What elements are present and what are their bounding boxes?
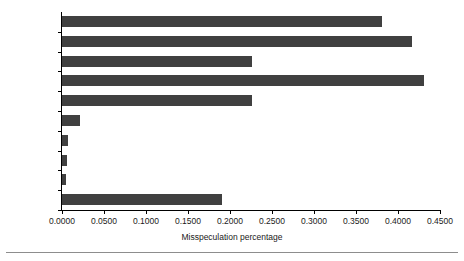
plot-area: gzipvprgccmcfcraftywupwiseswimmgridapplu…: [62, 12, 440, 210]
bar: [62, 135, 68, 146]
bar: [62, 75, 424, 86]
bar: [62, 56, 252, 67]
bar-row: wupwise: [62, 111, 440, 131]
bar-chart-figure: gzipvprgccmcfcraftywupwiseswimmgridapplu…: [0, 0, 464, 261]
x-axis-tick: [440, 210, 441, 214]
x-axis-tick: [356, 210, 357, 214]
bar-row: mcf: [62, 71, 440, 91]
x-axis-tick: [272, 210, 273, 214]
bar: [62, 115, 80, 126]
bar: [62, 174, 66, 185]
x-axis-tick: [146, 210, 147, 214]
x-axis-line: [61, 210, 441, 211]
x-axis-tick: [188, 210, 189, 214]
bar-row: gzip: [62, 12, 440, 32]
x-axis-tick: [398, 210, 399, 214]
x-axis-tick: [62, 210, 63, 214]
x-axis-tick: [314, 210, 315, 214]
bar: [62, 95, 252, 106]
bar: [62, 155, 67, 166]
bar-row: mgrid: [62, 151, 440, 171]
bar: [62, 36, 412, 47]
x-axis-tick-label: 0.4500: [410, 216, 464, 227]
bar-row: crafty: [62, 91, 440, 111]
bar: [62, 194, 222, 205]
x-axis-title: Misspeculation percentage: [0, 232, 464, 243]
bar-row: vpr: [62, 32, 440, 52]
bar-row: applu: [62, 170, 440, 190]
x-axis-tick: [230, 210, 231, 214]
bar-row: mesa: [62, 190, 440, 210]
bar-row: gcc: [62, 52, 440, 72]
bar-row: swim: [62, 131, 440, 151]
footer-divider: [6, 252, 458, 253]
bar: [62, 16, 382, 27]
x-axis-tick: [104, 210, 105, 214]
